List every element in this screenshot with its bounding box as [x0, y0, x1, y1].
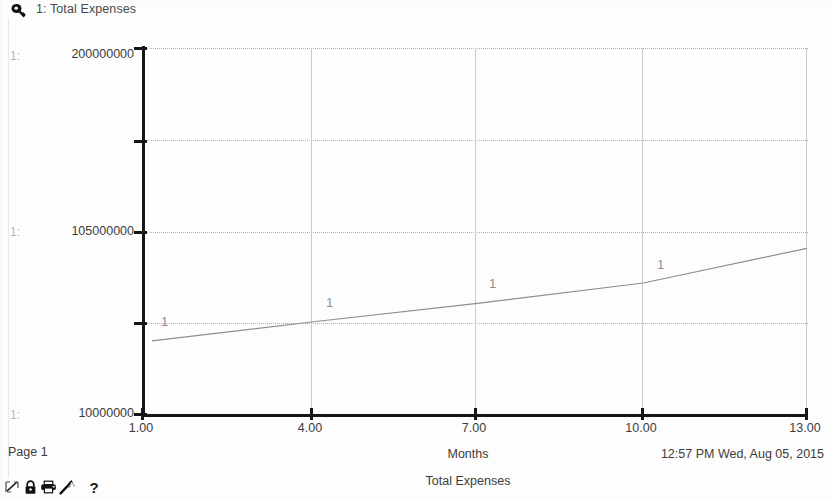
x-tick-label-1: 1.00 — [116, 421, 166, 435]
data-point-marker: 1 — [489, 277, 496, 290]
printer-icon[interactable] — [40, 478, 57, 496]
chart-title: Total Expenses — [368, 474, 568, 488]
x-tick-label-13: 13.00 — [777, 421, 832, 435]
toolbar: ? — [4, 477, 101, 497]
gridline-vertical — [806, 48, 807, 415]
x-axis-tick — [141, 408, 144, 420]
data-point-marker: 1 — [161, 315, 168, 328]
y-tick-label-top: 200000000 — [71, 47, 134, 61]
y-tick-label-bottom: 10000000 — [78, 406, 134, 420]
gridline-vertical — [311, 48, 312, 415]
y-axis-tick — [134, 322, 147, 325]
x-axis-tick — [310, 408, 313, 420]
y-axis-labels: 200000000 105000000 10000000 — [0, 0, 134, 499]
x-axis-title: Months — [378, 447, 558, 461]
x-tick-label-7: 7.00 — [449, 421, 499, 435]
timestamp-label: 12:57 PM Wed, Aug 05, 2015 — [661, 447, 824, 461]
data-point-marker: 1 — [326, 296, 333, 309]
gridline-vertical — [642, 48, 643, 415]
lock-icon[interactable] — [22, 478, 39, 496]
x-axis-tick — [641, 408, 644, 420]
y-tick-label-middle: 105000000 — [71, 224, 134, 238]
page-label: Page 1 — [8, 445, 48, 459]
no-graph-icon[interactable] — [4, 478, 21, 496]
y-axis-tick — [134, 47, 147, 50]
y-axis-tick — [134, 140, 147, 143]
x-tick-label-10: 10.00 — [613, 421, 669, 435]
data-point-marker: 1 — [657, 258, 664, 271]
wand-icon[interactable] — [58, 478, 75, 496]
y-axis-tick — [134, 231, 147, 234]
x-axis-tick — [805, 408, 808, 420]
help-button[interactable]: ? — [87, 478, 101, 496]
report-page: 1: Total Expenses 1: 1: 1: 200000000 105… — [0, 0, 832, 499]
gridline-vertical — [475, 48, 476, 415]
x-tick-label-4: 4.00 — [285, 421, 335, 435]
x-axis-tick — [474, 408, 477, 420]
